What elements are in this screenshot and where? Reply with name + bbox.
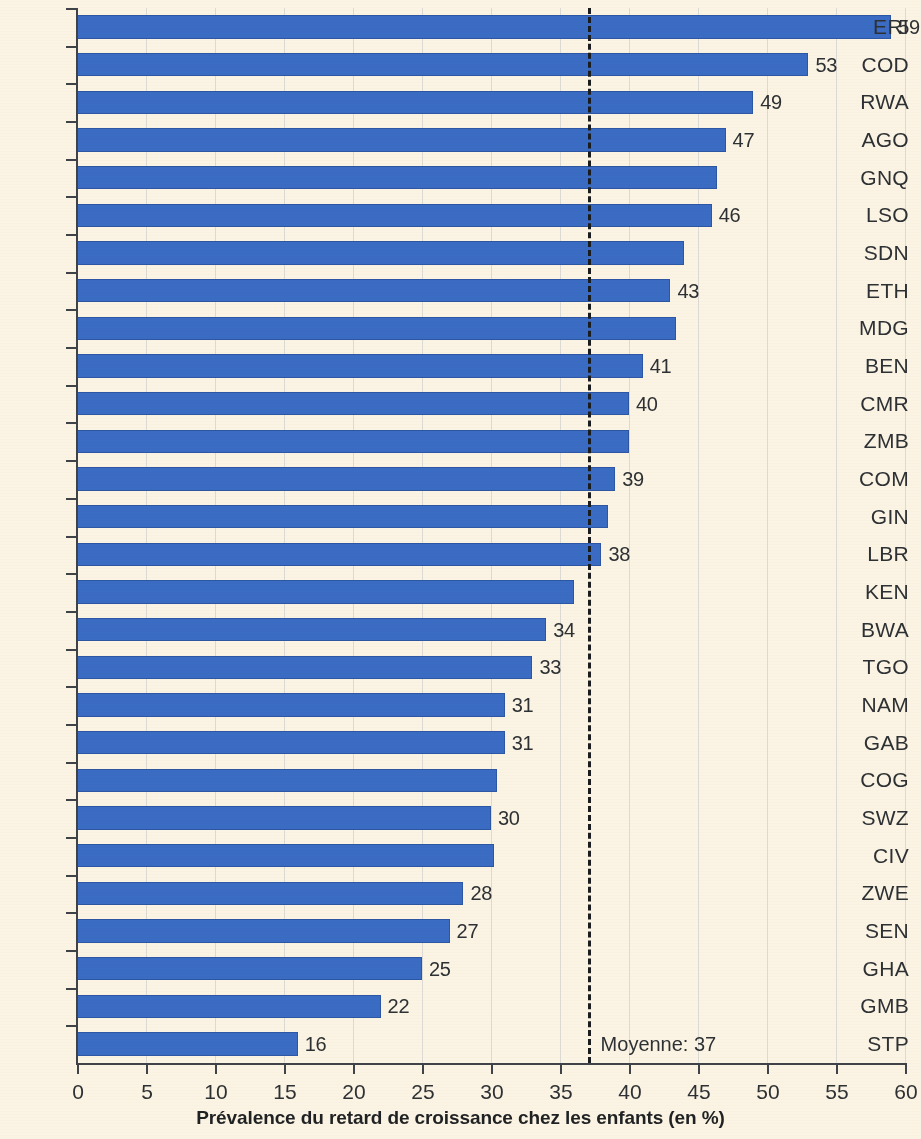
bar-zmb[interactable] [77, 430, 629, 453]
y-axis-tick [66, 196, 77, 198]
bar-ken[interactable] [77, 580, 574, 603]
bar-row [77, 317, 905, 340]
x-tick-label-50: 50 [756, 1080, 779, 1104]
bar-value-label: 47 [733, 128, 755, 151]
bar-sdn[interactable] [77, 241, 684, 264]
y-axis-tick [66, 950, 77, 952]
bar-value-label: 22 [388, 995, 410, 1018]
x-tick-label-10: 10 [204, 1080, 227, 1104]
y-tick-label-ken: KEN [865, 580, 909, 604]
bar-row: 38 [77, 543, 905, 566]
x-tick-label-0: 0 [72, 1080, 84, 1104]
bar-gmb[interactable] [77, 995, 381, 1018]
y-tick-label-stp: STP [867, 1032, 909, 1056]
y-tick-label-ben: BEN [865, 354, 909, 378]
y-tick-label-gmb: GMB [860, 994, 909, 1018]
x-axis-tick-20 [353, 1063, 355, 1074]
bar-ben[interactable] [77, 354, 643, 377]
bar-cod[interactable] [77, 53, 808, 76]
bar-cmr[interactable] [77, 392, 629, 415]
y-axis-tick [66, 649, 77, 651]
y-tick-label-com: COM [859, 467, 909, 491]
bar-row: 33 [77, 656, 905, 679]
y-axis-tick [66, 460, 77, 462]
bar-gha[interactable] [77, 957, 422, 980]
bar-nam[interactable] [77, 693, 505, 716]
x-tick-label-40: 40 [618, 1080, 641, 1104]
bar-value-label: 33 [539, 656, 561, 679]
y-tick-label-swz: SWZ [861, 806, 909, 830]
bar-row [77, 166, 905, 189]
bar-value-label: 25 [429, 957, 451, 980]
bar-gnq[interactable] [77, 166, 717, 189]
bar-row [77, 430, 905, 453]
mean-line-label: Moyenne: 37 [601, 1033, 717, 1056]
bar-value-label: 40 [636, 392, 658, 415]
bar-row: 16 [77, 1032, 905, 1055]
y-tick-label-mdg: MDG [859, 316, 909, 340]
y-axis-tick [66, 988, 77, 990]
y-tick-label-gha: GHA [863, 957, 909, 981]
bar-row: 59 [77, 15, 905, 38]
bar-ago[interactable] [77, 128, 726, 151]
y-axis-tick [66, 536, 77, 538]
y-axis-tick [66, 347, 77, 349]
bar-gab[interactable] [77, 731, 505, 754]
bar-row: 46 [77, 204, 905, 227]
bar-cog[interactable] [77, 769, 497, 792]
y-axis-tick [66, 422, 77, 424]
bar-row: 40 [77, 392, 905, 415]
bar-value-label: 46 [719, 204, 741, 227]
bar-mdg[interactable] [77, 317, 676, 340]
y-tick-label-gin: GIN [871, 505, 909, 529]
x-tick-label-55: 55 [825, 1080, 848, 1104]
bar-value-label: 27 [457, 920, 479, 943]
bar-row: 22 [77, 995, 905, 1018]
bar-row: 30 [77, 806, 905, 829]
bar-tgo[interactable] [77, 656, 532, 679]
bar-row: 43 [77, 279, 905, 302]
bar-bwa[interactable] [77, 618, 546, 641]
y-axis-tick [66, 837, 77, 839]
bar-civ[interactable] [77, 844, 494, 867]
bar-lso[interactable] [77, 204, 712, 227]
bar-row: 34 [77, 618, 905, 641]
y-tick-label-cog: COG [860, 768, 909, 792]
bar-eri[interactable] [77, 15, 891, 38]
y-tick-label-eri: ERI [873, 15, 909, 39]
y-axis-tick [66, 875, 77, 877]
y-axis-tick [66, 309, 77, 311]
bar-sen[interactable] [77, 919, 450, 942]
x-axis-tick-25 [422, 1063, 424, 1074]
y-tick-label-gnq: GNQ [860, 166, 909, 190]
y-axis-tick [66, 385, 77, 387]
bar-row [77, 580, 905, 603]
bar-swz[interactable] [77, 806, 491, 829]
bar-value-label: 31 [512, 731, 534, 754]
bar-eth[interactable] [77, 279, 670, 302]
y-axis-tick [66, 121, 77, 123]
bar-zwe[interactable] [77, 882, 463, 905]
bar-rwa[interactable] [77, 91, 753, 114]
bar-stp[interactable] [77, 1032, 298, 1055]
x-tick-label-60: 60 [894, 1080, 917, 1104]
bar-row: 31 [77, 693, 905, 716]
y-axis-tick [66, 724, 77, 726]
bar-gin[interactable] [77, 505, 608, 528]
bar-row [77, 505, 905, 528]
x-tick-label-45: 45 [687, 1080, 710, 1104]
y-axis-tick [66, 1025, 77, 1027]
y-tick-label-zmb: ZMB [864, 429, 909, 453]
bar-value-label: 30 [498, 807, 520, 830]
bar-value-label: 34 [553, 618, 575, 641]
y-tick-label-sdn: SDN [864, 241, 909, 265]
x-tick-label-15: 15 [273, 1080, 296, 1104]
y-axis-tick [66, 159, 77, 161]
bar-row: 49 [77, 91, 905, 114]
bar-lbr[interactable] [77, 543, 601, 566]
bar-value-label: 39 [622, 467, 644, 490]
x-axis-title: Prévalence du retard de croissance chez … [0, 1107, 921, 1129]
y-tick-label-tgo: TGO [863, 655, 909, 679]
bar-com[interactable] [77, 467, 615, 490]
bar-value-label: 41 [650, 354, 672, 377]
